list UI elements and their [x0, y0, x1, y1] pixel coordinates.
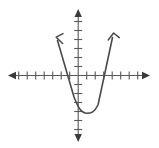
curve-right-arrowhead [108, 33, 119, 40]
coordinate-plane-graph [0, 0, 159, 148]
x-axis-right-arrowhead [142, 72, 150, 79]
y-axis-bottom-arrowhead [75, 134, 82, 142]
x-axis-group [8, 72, 150, 80]
x-axis-left-arrowhead [8, 72, 16, 79]
curve-group [56, 33, 119, 113]
y-axis-top-arrowhead [75, 9, 82, 17]
graph-figure [0, 0, 159, 148]
